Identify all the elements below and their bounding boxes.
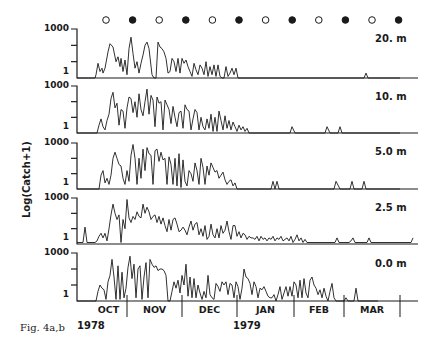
y-tick-1: 1 — [29, 232, 69, 242]
series-line-50m — [77, 145, 400, 190]
new-moon-icon — [156, 17, 163, 24]
full-moon-icon — [342, 17, 349, 24]
y-tick-1000: 1000 — [29, 80, 69, 90]
y-tick-1: 1 — [29, 177, 69, 187]
catch-series-lines — [77, 37, 413, 301]
month-label-dec: DEC — [190, 304, 230, 315]
depth-label: 2.5 m — [375, 202, 407, 213]
month-label-feb: FEB — [299, 304, 339, 315]
depth-label: 10. m — [375, 91, 407, 102]
series-line-25m — [77, 200, 413, 243]
depth-label: 0.0 m — [375, 258, 407, 269]
full-moon-icon — [395, 17, 402, 24]
full-moon-icon — [236, 17, 243, 24]
figure-caption: Fig. 4a,b — [20, 322, 65, 333]
month-label-nov: NOV — [135, 304, 175, 315]
new-moon-icon — [103, 17, 110, 24]
full-moon-icon — [183, 17, 190, 24]
month-label-oct: OCT — [89, 304, 129, 315]
y-tick-1: 1 — [29, 66, 69, 76]
new-moon-icon — [369, 17, 376, 24]
y-tick-1000: 1000 — [29, 137, 69, 147]
year-end-label: 1979 — [233, 320, 261, 331]
new-moon-icon — [262, 17, 269, 24]
moon-phase-markers — [103, 17, 402, 24]
series-line-10m — [77, 89, 400, 133]
month-label-mar: MAR — [352, 304, 392, 315]
full-moon-icon — [129, 17, 136, 24]
month-label-jan: JAN — [246, 304, 286, 315]
year-start-label: 1978 — [77, 320, 105, 331]
y-tick-1000: 1000 — [29, 192, 69, 202]
full-moon-icon — [289, 17, 296, 24]
y-axis-label: Log(Catch+1) — [21, 141, 32, 218]
new-moon-icon — [209, 17, 216, 24]
y-tick-1000: 1000 — [29, 23, 69, 33]
y-tick-1: 1 — [29, 121, 69, 131]
series-line-20m — [77, 37, 400, 78]
new-moon-icon — [316, 17, 323, 24]
y-tick-1: 1 — [29, 289, 69, 299]
depth-label: 5.0 m — [375, 146, 407, 157]
depth-label: 20. m — [375, 33, 407, 44]
y-tick-1000: 1000 — [29, 247, 69, 257]
series-line-00m — [77, 256, 378, 301]
